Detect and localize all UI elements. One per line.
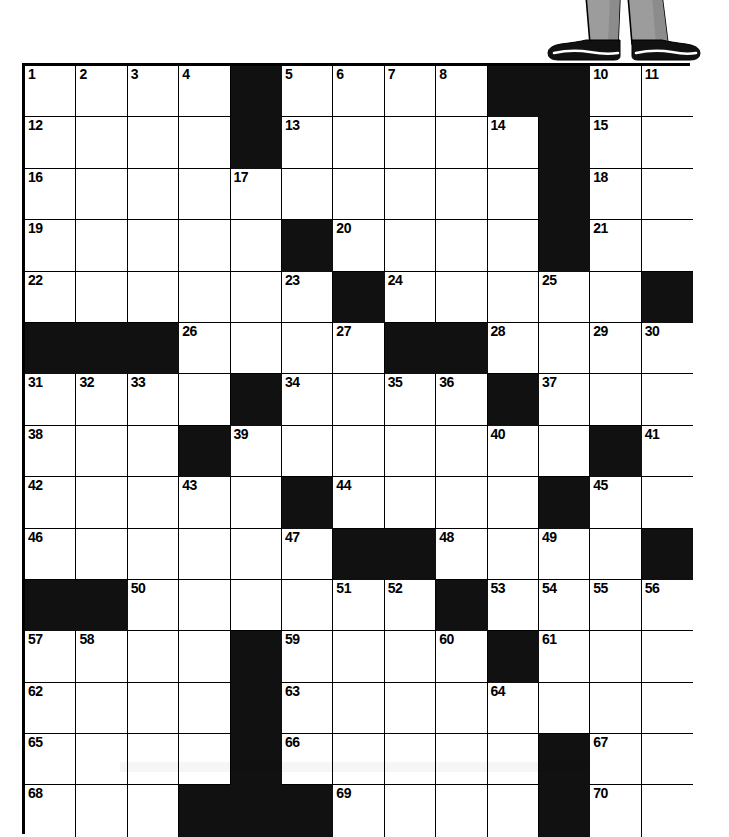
crossword-cell[interactable]: 18 <box>590 169 641 220</box>
crossword-cell[interactable] <box>333 169 384 220</box>
crossword-cell[interactable]: 24 <box>385 272 436 323</box>
crossword-cell[interactable] <box>385 683 436 734</box>
crossword-cell[interactable]: 41 <box>642 426 693 477</box>
crossword-cell[interactable]: 37 <box>539 374 590 425</box>
crossword-cell[interactable]: 36 <box>436 374 487 425</box>
crossword-cell[interactable] <box>128 477 179 528</box>
crossword-cell[interactable] <box>590 374 641 425</box>
crossword-cell[interactable] <box>179 272 230 323</box>
crossword-cell[interactable] <box>231 529 282 580</box>
crossword-cell[interactable]: 51 <box>333 580 384 631</box>
crossword-cell[interactable]: 25 <box>539 272 590 323</box>
crossword-cell[interactable]: 19 <box>25 220 76 271</box>
crossword-cell[interactable]: 16 <box>25 169 76 220</box>
crossword-cell[interactable]: 66 <box>282 734 333 785</box>
crossword-cell[interactable]: 23 <box>282 272 333 323</box>
crossword-cell[interactable]: 57 <box>25 631 76 682</box>
crossword-cell[interactable] <box>76 169 127 220</box>
crossword-cell[interactable] <box>282 323 333 374</box>
crossword-cell[interactable] <box>436 426 487 477</box>
crossword-cell[interactable]: 2 <box>76 66 127 117</box>
crossword-cell[interactable]: 3 <box>128 66 179 117</box>
crossword-cell[interactable] <box>385 169 436 220</box>
crossword-cell[interactable]: 59 <box>282 631 333 682</box>
crossword-cell[interactable] <box>128 683 179 734</box>
crossword-cell[interactable]: 68 <box>25 785 76 836</box>
crossword-cell[interactable] <box>128 529 179 580</box>
crossword-cell[interactable] <box>488 272 539 323</box>
crossword-cell[interactable] <box>128 117 179 168</box>
crossword-cell[interactable] <box>231 580 282 631</box>
crossword-cell[interactable] <box>76 426 127 477</box>
crossword-cell[interactable] <box>488 477 539 528</box>
crossword-cell[interactable] <box>128 631 179 682</box>
crossword-cell[interactable]: 12 <box>25 117 76 168</box>
crossword-cell[interactable] <box>436 169 487 220</box>
crossword-cell[interactable]: 47 <box>282 529 333 580</box>
crossword-cell[interactable] <box>385 117 436 168</box>
crossword-cell[interactable] <box>642 117 693 168</box>
crossword-cell[interactable]: 48 <box>436 529 487 580</box>
crossword-cell[interactable] <box>76 117 127 168</box>
crossword-cell[interactable]: 49 <box>539 529 590 580</box>
crossword-cell[interactable] <box>179 220 230 271</box>
crossword-cell[interactable] <box>436 220 487 271</box>
crossword-cell[interactable]: 28 <box>488 323 539 374</box>
crossword-cell[interactable]: 39 <box>231 426 282 477</box>
crossword-cell[interactable]: 20 <box>333 220 384 271</box>
crossword-cell[interactable] <box>179 529 230 580</box>
crossword-cell[interactable] <box>333 117 384 168</box>
crossword-cell[interactable]: 44 <box>333 477 384 528</box>
crossword-cell[interactable]: 17 <box>231 169 282 220</box>
crossword-cell[interactable]: 45 <box>590 477 641 528</box>
crossword-cell[interactable] <box>76 529 127 580</box>
crossword-cell[interactable] <box>231 323 282 374</box>
crossword-cell[interactable] <box>179 580 230 631</box>
crossword-cell[interactable]: 33 <box>128 374 179 425</box>
crossword-cell[interactable]: 65 <box>25 734 76 785</box>
crossword-cell[interactable] <box>76 272 127 323</box>
crossword-cell[interactable] <box>76 477 127 528</box>
crossword-cell[interactable]: 30 <box>642 323 693 374</box>
crossword-cell[interactable]: 46 <box>25 529 76 580</box>
crossword-cell[interactable] <box>333 374 384 425</box>
crossword-cell[interactable] <box>231 220 282 271</box>
crossword-cell[interactable] <box>488 529 539 580</box>
crossword-cell[interactable]: 64 <box>488 683 539 734</box>
crossword-cell[interactable] <box>539 683 590 734</box>
crossword-cell[interactable] <box>488 785 539 836</box>
crossword-cell[interactable] <box>436 785 487 836</box>
crossword-cell[interactable]: 67 <box>590 734 641 785</box>
crossword-cell[interactable] <box>539 323 590 374</box>
crossword-cell[interactable] <box>590 631 641 682</box>
crossword-cell[interactable] <box>179 374 230 425</box>
crossword-cell[interactable]: 6 <box>333 66 384 117</box>
crossword-cell[interactable] <box>642 683 693 734</box>
crossword-cell[interactable] <box>128 426 179 477</box>
crossword-cell[interactable] <box>590 529 641 580</box>
crossword-cell[interactable] <box>436 117 487 168</box>
crossword-cell[interactable] <box>333 631 384 682</box>
crossword-cell[interactable]: 50 <box>128 580 179 631</box>
crossword-cell[interactable] <box>128 169 179 220</box>
crossword-cell[interactable] <box>436 477 487 528</box>
crossword-cell[interactable] <box>76 220 127 271</box>
crossword-cell[interactable] <box>282 426 333 477</box>
crossword-grid[interactable]: 1234567810111213141516171819202122232425… <box>22 63 690 834</box>
crossword-cell[interactable]: 7 <box>385 66 436 117</box>
crossword-cell[interactable]: 26 <box>179 323 230 374</box>
crossword-cell[interactable]: 1 <box>25 66 76 117</box>
crossword-cell[interactable] <box>76 785 127 836</box>
crossword-cell[interactable]: 8 <box>436 66 487 117</box>
crossword-cell[interactable] <box>333 426 384 477</box>
crossword-cell[interactable]: 56 <box>642 580 693 631</box>
crossword-cell[interactable]: 34 <box>282 374 333 425</box>
crossword-cell[interactable] <box>385 785 436 836</box>
crossword-cell[interactable] <box>642 374 693 425</box>
crossword-cell[interactable]: 69 <box>333 785 384 836</box>
crossword-cell[interactable]: 22 <box>25 272 76 323</box>
crossword-cell[interactable] <box>642 734 693 785</box>
crossword-cell[interactable]: 15 <box>590 117 641 168</box>
crossword-cell[interactable] <box>128 220 179 271</box>
crossword-cell[interactable] <box>76 683 127 734</box>
